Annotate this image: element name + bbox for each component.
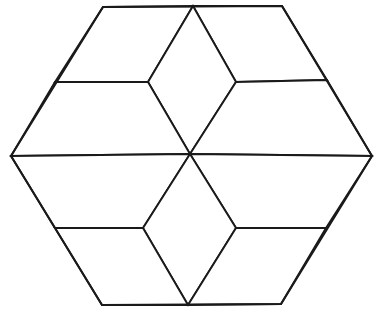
figure-container <box>0 0 381 320</box>
rhombille-hexagon-figure <box>0 0 381 320</box>
